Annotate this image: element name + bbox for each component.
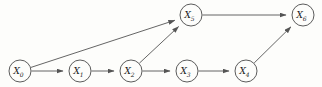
graph-node-x0[interactable]: X0 <box>9 60 31 82</box>
graph-node-x2[interactable]: X2 <box>120 60 142 82</box>
graph-node-x5[interactable]: X5 <box>180 4 202 26</box>
graph-canvas: X0X1X2X3X4X5X6 <box>0 0 322 87</box>
graph-diagram: X0X1X2X3X4X5X6 <box>0 0 322 87</box>
graph-node-x1[interactable]: X1 <box>69 60 91 82</box>
graph-edge-x4-to-x6 <box>254 27 291 63</box>
graph-node-x3[interactable]: X3 <box>176 60 198 82</box>
graph-node-x4[interactable]: X4 <box>235 60 257 82</box>
graph-edge-x2-to-x5 <box>139 27 178 64</box>
graph-edge-x0-to-x5 <box>31 20 175 67</box>
graph-node-x6[interactable]: X6 <box>292 4 314 26</box>
